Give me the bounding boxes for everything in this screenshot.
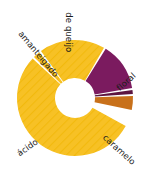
donut-slice-group: [17, 40, 133, 156]
donut-chart-svg: [0, 0, 157, 175]
donut-chart: ácidoamanteigadode queijofloralcaramelo: [0, 0, 157, 175]
donut-slice-caramelo[interactable]: [95, 96, 133, 110]
